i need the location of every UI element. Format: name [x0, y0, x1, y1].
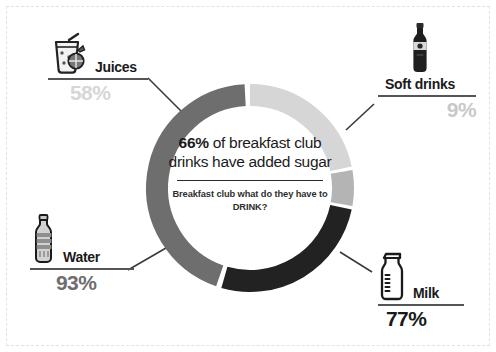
callout-juices[interactable]: Juices 58%	[48, 32, 148, 104]
callout-label-juices: Juices	[95, 59, 137, 76]
center-divider	[177, 180, 323, 181]
center-subtitle-text: Breakfast club what do they have to	[172, 189, 327, 199]
callout-percent-milk: 77%	[386, 308, 464, 330]
center-headline-figure: 66%	[179, 134, 209, 151]
callout-rule-juices	[48, 78, 148, 80]
callout-percent-juices: 58%	[70, 82, 148, 104]
callout-rule-milk	[378, 304, 464, 306]
cola-bottle-icon	[407, 22, 433, 76]
donut-segment-soft-drinks	[342, 172, 343, 204]
callout-percent-soft-drinks: 9%	[378, 99, 476, 121]
donut-segment-milk	[224, 207, 341, 281]
callout-milk[interactable]: Milk 77%	[378, 252, 464, 330]
callout-label-soft-drinks: Soft drinks	[385, 76, 455, 93]
callout-label-milk: Milk	[413, 285, 439, 302]
center-callout: 66% of breakfast club drinks have added …	[163, 133, 337, 213]
center-subtitle: Breakfast club what do they have to DRIN…	[163, 188, 337, 213]
callout-water[interactable]: Water 93%	[30, 214, 134, 294]
callout-rule-soft-drinks	[378, 95, 476, 97]
callout-percent-water: 93%	[56, 272, 134, 294]
water-bottle-icon	[30, 214, 58, 266]
juice-cup-icon	[48, 32, 90, 76]
callout-soft-drinks[interactable]: Soft drinks 9%	[378, 22, 476, 121]
callout-rule-water	[30, 268, 134, 270]
callout-label-water: Water	[63, 249, 100, 266]
center-subtitle-emphasis: DRINK?	[233, 202, 268, 212]
infographic-canvas: 66% of breakfast club drinks have added …	[0, 0, 496, 352]
center-headline: 66% of breakfast club drinks have added …	[163, 133, 337, 171]
milk-bottle-icon	[378, 252, 408, 302]
